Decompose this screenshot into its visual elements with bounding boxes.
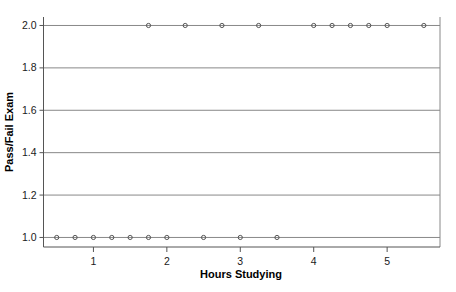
x-axis-title: Hours Studying xyxy=(200,268,282,280)
plot-area-background xyxy=(44,17,441,247)
x-tick-label-3: 3 xyxy=(237,255,243,267)
x-tick-label-4: 4 xyxy=(311,255,317,267)
x-tick-label-1: 1 xyxy=(91,255,97,267)
y-axis-title: Pass/Fail Exam xyxy=(3,92,15,172)
x-tick-label-5: 5 xyxy=(384,255,390,267)
y-tick-label-1.2: 1.2 xyxy=(22,189,37,201)
x-tick-label-2: 2 xyxy=(164,255,170,267)
scatter-plot: 1.01.21.41.61.82.0 12345 Hours Studying … xyxy=(0,0,456,292)
y-tick-label-1.8: 1.8 xyxy=(22,61,37,73)
y-tick-label-1.4: 1.4 xyxy=(22,146,37,158)
y-tick-label-1.0: 1.0 xyxy=(22,231,37,243)
chart-container: 1.01.21.41.61.82.0 12345 Hours Studying … xyxy=(0,0,456,292)
y-tick-label-1.6: 1.6 xyxy=(22,104,37,116)
y-tick-label-2.0: 2.0 xyxy=(22,19,37,31)
